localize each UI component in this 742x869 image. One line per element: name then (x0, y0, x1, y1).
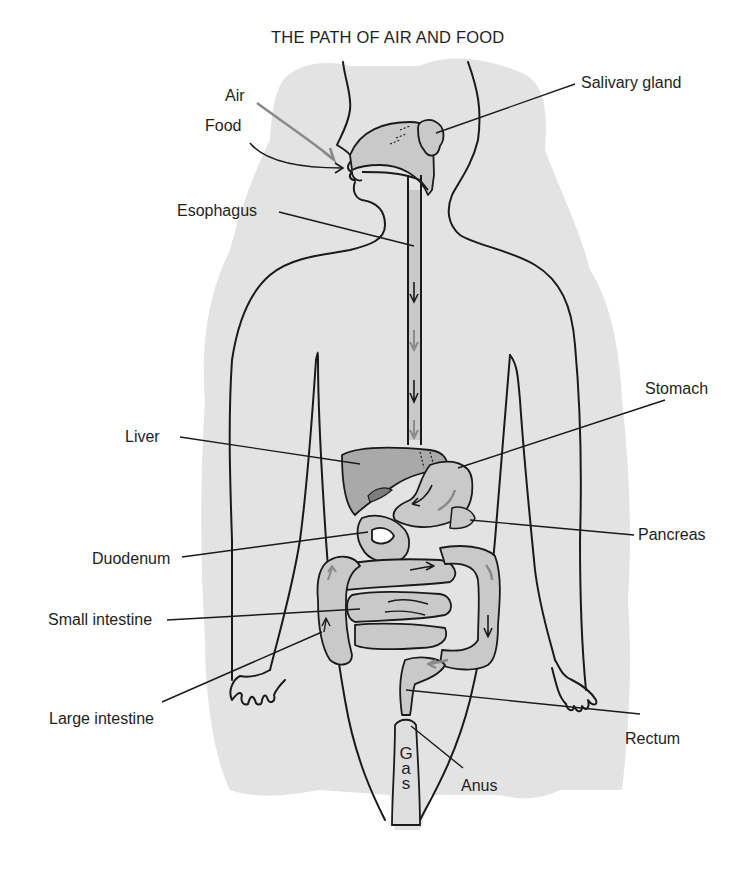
label-esophagus: Esophagus (177, 202, 257, 220)
label-stomach: Stomach (645, 380, 708, 398)
label-food: Food (205, 117, 241, 135)
diagram-canvas: THE PATH OF AIR AND FOOD Air Food Saliva… (0, 0, 742, 869)
label-liver: Liver (125, 428, 160, 446)
label-small-intestine: Small intestine (48, 611, 152, 629)
label-pancreas: Pancreas (638, 526, 706, 544)
label-rectum: Rectum (625, 730, 680, 748)
label-duodenum: Duodenum (92, 550, 170, 568)
gas-letter-s: s (399, 776, 413, 791)
label-anus: Anus (461, 777, 497, 795)
label-large-intestine: Large intestine (49, 710, 154, 728)
esophagus (408, 175, 421, 445)
label-air: Air (225, 87, 245, 105)
label-salivary-gland: Salivary gland (581, 74, 682, 92)
diagram-title: THE PATH OF AIR AND FOOD (271, 28, 504, 47)
label-gas: G a s (399, 746, 413, 791)
